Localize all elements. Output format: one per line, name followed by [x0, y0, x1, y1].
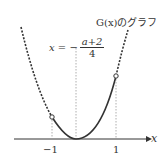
left-dashed-curve [21, 27, 52, 117]
equation-fraction: a+2 4 [80, 36, 105, 59]
graph-title: G(x)のグラフ [96, 14, 157, 29]
tick-minus-one: −1 [43, 144, 58, 155]
tick-one: 1 [113, 144, 119, 155]
equation-numerator: a+2 [80, 36, 105, 48]
equation-lhs: x = − [49, 42, 78, 53]
right-dashed-curve [116, 30, 128, 76]
open-point-left [50, 115, 54, 119]
open-point-right [114, 74, 118, 78]
symmetry-equation: x = − a+2 4 [49, 36, 104, 59]
equation-denominator: 4 [89, 48, 95, 59]
x-axis-label: x [151, 132, 157, 145]
graph-diagram: G(x)のグラフ x = − a+2 4 −1 1 x [0, 0, 167, 159]
solid-curve [52, 76, 116, 139]
